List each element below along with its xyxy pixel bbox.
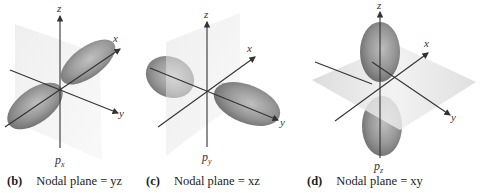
caption-b: (b)Nodal plane = yz (7, 174, 122, 189)
orbital-label-pz: pz (373, 159, 384, 175)
panel-b-px-orbital: z x y px (0, 2, 124, 169)
z-axis-label: z (203, 8, 209, 20)
caption-tag: (b) (7, 174, 22, 188)
orbital-label-py: py (201, 150, 212, 166)
z-axis-label: z (376, 0, 382, 11)
orbital-label-px: px (54, 153, 65, 169)
caption-c: (c)Nodal plane = xz (146, 174, 260, 189)
x-axis-label: x (423, 37, 429, 49)
caption-tag: (d) (307, 174, 322, 188)
caption-text: Nodal plane = xz (174, 174, 260, 188)
y-axis-label: y (450, 111, 456, 123)
caption-tag: (c) (146, 174, 160, 188)
caption-text: Nodal plane = yz (36, 174, 122, 188)
y-axis-label: y (279, 116, 285, 128)
x-axis-label: x (112, 32, 118, 44)
panel-c-py-orbital: z x y py (139, 8, 287, 166)
p-orbitals-figure: z x y px z x y py z x y pz (0, 0, 480, 193)
x-axis-label: x (246, 42, 252, 54)
y-axis-label: y (118, 107, 124, 119)
caption-text: Nodal plane = xy (336, 174, 423, 188)
panel-d-pz-orbital: z x y pz (312, 0, 476, 175)
caption-d: (d)Nodal plane = xy (307, 174, 423, 189)
z-axis-label: z (56, 2, 62, 14)
